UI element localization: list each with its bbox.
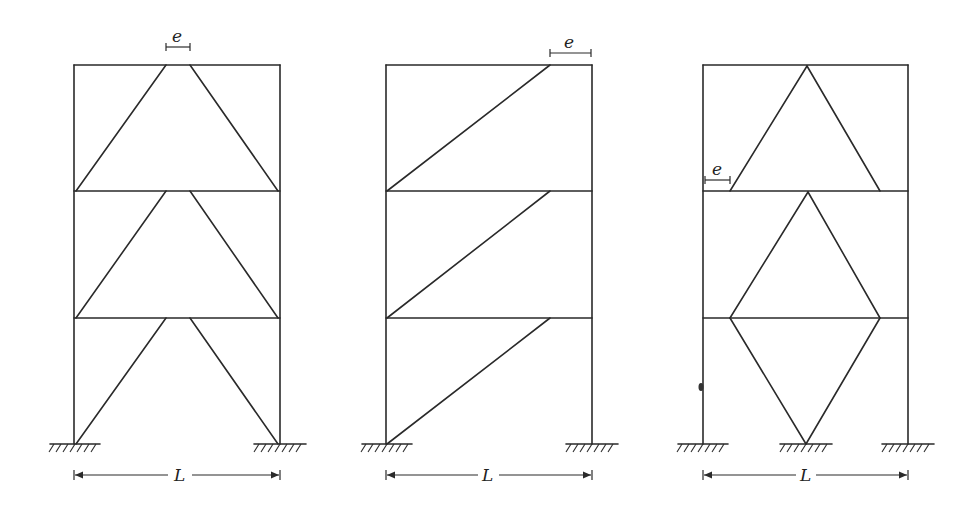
frame-1-left-support [49,444,100,452]
frame-2-right-support [566,444,618,452]
frame-2-eccentricity-dimension: e [550,32,591,57]
frame-2-left-support [361,444,412,452]
span-label: L [481,465,493,485]
frame-1-right-support [254,444,306,452]
frame-3-right-support [882,444,934,452]
frame-3: e [677,65,934,485]
frame-3-middle-support [780,444,832,452]
eccentricity-label: e [712,159,722,179]
frame-1-columns-beams [74,65,280,444]
frame-2-columns-beams [386,65,592,444]
eccentricity-label: e [564,32,574,52]
span-label: L [173,465,185,485]
frame-3-left-support [677,444,728,452]
frame-3-braces [730,66,880,444]
ink-blot [699,383,704,391]
frame-3-columns-beams [703,65,908,444]
eccentricity-label: e [172,26,182,46]
frame-1-braces [76,65,278,444]
frame-3-eccentricity-dimension: e [705,159,730,184]
frame-1-span-dimension: L [74,465,280,485]
frame-2-braces [387,65,550,444]
span-label: L [799,465,811,485]
frame-2-span-dimension: L [386,465,592,485]
braced-frames-diagram: e L [0,0,976,506]
frame-1-eccentricity-dimension: e [166,26,190,51]
frame-2: e L [361,32,618,485]
frame-3-span-dimension: L [703,465,908,485]
frame-1: e L [49,26,306,485]
